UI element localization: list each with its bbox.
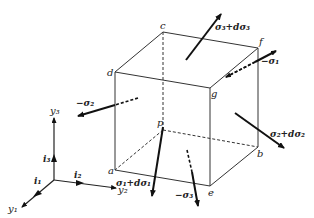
label-sigma3-plus: σ₃+dσ₃: [215, 22, 250, 32]
vertex-a: a: [108, 165, 114, 176]
vertex-labels: c f d g p a e b: [107, 20, 265, 198]
label-neg-sigma2: −σ₂: [76, 98, 94, 108]
label-sigma2-plus: σ₂+dσ₂: [270, 129, 305, 139]
stress-cube-diagram: c f d g p a e b σ₃+dσ₃ −σ₁ −σ₂ σ₂+dσ₂ σ₁…: [0, 0, 314, 218]
label-i1: i₁: [34, 176, 41, 186]
label-y2: y₂: [117, 184, 128, 195]
neg-sigma3-arrow: [192, 172, 198, 206]
vertex-g: g: [211, 88, 217, 99]
hidden-edges: [115, 32, 258, 170]
vertex-d: d: [107, 67, 113, 78]
y2-axis: [54, 180, 116, 188]
coordinate-axes: [22, 118, 116, 207]
vertex-p: p: [157, 117, 164, 128]
label-i3: i₃: [43, 154, 50, 164]
label-i2: i₂: [74, 170, 81, 180]
vertex-f: f: [258, 36, 265, 47]
vertex-b: b: [257, 148, 263, 159]
i2-unit-vector-icon: [76, 180, 84, 186]
i3-unit-vector-icon: [51, 154, 57, 162]
label-y1: y₁: [7, 203, 18, 214]
vertex-e: e: [208, 187, 214, 198]
vertex-c: c: [160, 20, 166, 31]
label-y3: y₃: [49, 105, 60, 116]
axis-labels: y₃ y₂ y₁ i₃ i₂ i₁: [7, 105, 128, 214]
label-neg-sigma3: −σ₃: [175, 190, 193, 200]
label-neg-sigma1: −σ₁: [261, 56, 279, 66]
stress-arrows: [78, 14, 284, 206]
cube-edges: [115, 32, 258, 186]
